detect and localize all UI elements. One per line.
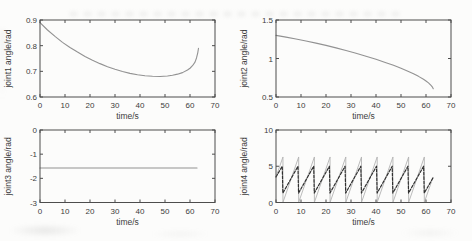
x-tick-label: 50 [161,207,170,216]
y-tick-label: -1 [30,150,38,159]
series-joint1-trajectory [40,23,199,77]
y-tick-label: 0.7 [26,67,38,76]
ylabel-joint3: joint3 angle/rad [3,137,13,196]
y-tick-label: 0 [269,199,274,208]
xlabel-joint3: time/s [116,217,139,227]
x-tick-label: 0 [38,101,43,110]
x-tick-label: 40 [136,207,145,216]
xlabel-joint4: time/s [352,217,375,227]
y-tick-label: 0.8 [26,42,38,51]
x-tick-label: 40 [372,207,381,216]
x-tick-label: 10 [61,207,70,216]
x-tick-label: 30 [111,207,120,216]
xlabel-joint1: time/s [116,111,139,121]
x-tick-label: 60 [422,101,431,110]
x-tick-label: 40 [136,101,145,110]
x-tick-label: 20 [86,207,95,216]
series-joint2-trajectory [276,35,433,88]
y-tick-label: 5 [269,162,274,171]
x-tick-label: 30 [347,207,356,216]
x-tick-label: 10 [297,207,306,216]
x-tick-label: 70 [447,207,456,216]
matlab-figure: 0102030405060700.60.70.80.9time/sjoint1 … [0,0,472,241]
series-joint4-actual-sawtooth [276,166,433,193]
x-tick-label: 70 [447,101,456,110]
x-tick-label: 10 [297,101,306,110]
x-tick-label: 0 [38,207,43,216]
y-tick-label: 1.5 [262,16,274,25]
y-tick-label: 10 [264,126,273,135]
axes-box-joint3 [40,130,215,203]
subplot-joint4: 0102030405060700510time/sjoint4 angle/ra… [239,126,456,227]
y-tick-label: 0.9 [26,16,38,25]
x-tick-label: 50 [397,101,406,110]
axes-box-joint1 [40,20,215,97]
x-tick-label: 20 [322,207,331,216]
subplot-joint2: 0102030405060700.511.5time/sjoint2 angle… [239,16,456,121]
x-tick-label: 30 [111,101,120,110]
axes-box-joint2 [276,20,451,97]
y-tick-label: 0.5 [262,93,274,102]
x-tick-label: 50 [397,207,406,216]
figure-canvas: 0102030405060700.60.70.80.9time/sjoint1 … [0,0,472,241]
y-tick-label: 0.6 [26,93,38,102]
y-tick-label: -3 [30,199,38,208]
x-tick-label: 40 [372,101,381,110]
x-tick-label: 50 [161,101,170,110]
y-tick-label: 0 [33,126,38,135]
x-tick-label: 70 [211,101,220,110]
xlabel-joint2: time/s [352,111,375,121]
series-joint4-reference-sawtooth [276,157,433,202]
x-tick-label: 60 [186,101,195,110]
ylabel-joint2: joint2 angle/rad [239,29,249,88]
x-tick-label: 0 [274,101,279,110]
y-tick-label: 1 [269,55,274,64]
ylabel-joint4: joint4 angle/rad [239,137,249,196]
x-tick-label: 20 [86,101,95,110]
x-tick-label: 20 [322,101,331,110]
x-tick-label: 30 [347,101,356,110]
subplot-joint1: 0102030405060700.60.70.80.9time/sjoint1 … [3,16,220,121]
x-tick-label: 60 [422,207,431,216]
y-tick-label: -2 [30,174,38,183]
x-tick-label: 10 [61,101,70,110]
x-tick-label: 70 [211,207,220,216]
ylabel-joint1: joint1 angle/rad [3,29,13,88]
x-tick-label: 60 [186,207,195,216]
subplot-joint3: 010203040506070-3-2-10time/sjoint3 angle… [3,126,220,227]
x-tick-label: 0 [274,207,279,216]
